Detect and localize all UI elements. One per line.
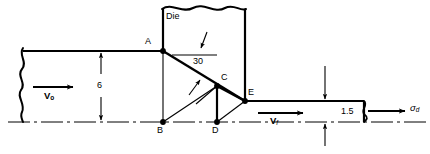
node-label-C: C [221, 73, 228, 82]
exit-velocity-subscript: f [276, 119, 278, 126]
workpiece-inlet-outline [20, 48, 163, 122]
exit-thickness-value: 1.5 [341, 107, 354, 116]
figure-canvas: Die A B C D E 30 6 1.5 Vo Vf σd [0, 0, 430, 154]
exit-velocity-label: Vf [270, 116, 278, 127]
inlet-velocity-subscript: o [50, 94, 54, 101]
angle-value-label: 30 [193, 57, 203, 66]
die-face-pointer-arrow [189, 80, 200, 95]
node-label-B: B [157, 126, 163, 135]
entry-thickness-value: 6 [97, 81, 102, 90]
node-dot-C [214, 83, 220, 89]
node-markers [160, 48, 248, 125]
drawing-stress-subscript: d [416, 106, 420, 113]
drawing-stress-label: σd [410, 103, 419, 114]
die-label: Die [166, 12, 180, 21]
angle-dimension-30 [172, 32, 217, 55]
node-label-E: E [248, 88, 254, 97]
inlet-velocity-label: Vo [44, 91, 54, 102]
slip-line-field [163, 51, 245, 122]
workpiece-exit-outline [245, 101, 405, 122]
node-dot-A [160, 48, 166, 54]
node-label-D: D [212, 126, 219, 135]
node-label-A: A [145, 37, 151, 46]
